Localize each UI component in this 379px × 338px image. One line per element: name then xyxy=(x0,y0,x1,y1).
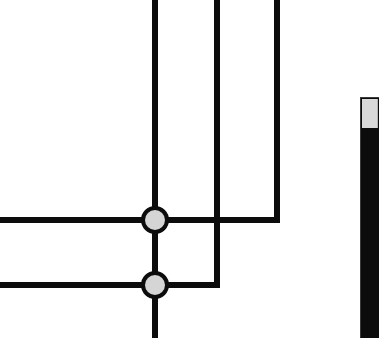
diagram-svg xyxy=(0,0,358,338)
scrollbar-thumb[interactable] xyxy=(362,99,378,128)
screenshot-root xyxy=(0,0,379,338)
scrollbar-track[interactable] xyxy=(360,97,379,338)
node-junction-upper[interactable] xyxy=(143,208,167,232)
node-junction-lower[interactable] xyxy=(143,273,167,297)
vertical-scrollbar[interactable] xyxy=(358,0,379,338)
diagram-canvas[interactable] xyxy=(0,0,358,338)
